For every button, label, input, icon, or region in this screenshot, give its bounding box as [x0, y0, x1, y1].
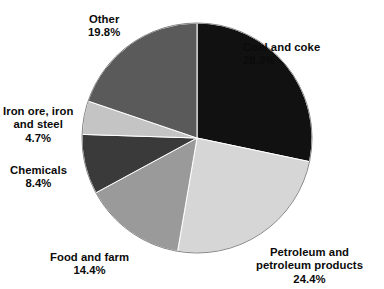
slice-label-coal: Coal and coke 28.3%	[243, 41, 320, 68]
slice-label-petroleum-line2: petroleum products	[256, 259, 363, 272]
slice-label-petroleum-percent: 24.4%	[256, 273, 363, 286]
slice-label-chemicals-line1: Chemicals	[10, 164, 67, 177]
slice-label-petroleum-line1: Petroleum and	[256, 246, 363, 259]
slice-label-iron-ore: Iron ore, iron and steel 4.7%	[3, 105, 73, 145]
slice-label-food-percent: 14.4%	[50, 264, 129, 277]
slice-label-other-percent: 19.8%	[88, 26, 120, 39]
slice-label-food-and-farm: Food and farm 14.4%	[50, 251, 129, 278]
slice-label-petroleum: Petroleum and petroleum products 24.4%	[256, 246, 363, 286]
pie-chart-figure: Coal and coke 28.3% Petroleum and petrol…	[0, 0, 384, 289]
slice-label-chemicals: Chemicals 8.4%	[10, 164, 67, 191]
slice-label-ironore-line2: and steel	[3, 118, 73, 131]
slice-label-other-line1: Other	[88, 13, 120, 26]
slice-label-other: Other 19.8%	[88, 13, 120, 40]
slice-label-food-line1: Food and farm	[50, 251, 129, 264]
slice-label-coal-percent: 28.3%	[243, 54, 320, 67]
slice-label-ironore-percent: 4.7%	[3, 132, 73, 145]
slice-label-chemicals-percent: 8.4%	[10, 177, 67, 190]
slice-label-coal-line1: Coal and coke	[243, 41, 320, 54]
slice-label-ironore-line1: Iron ore, iron	[3, 105, 73, 118]
